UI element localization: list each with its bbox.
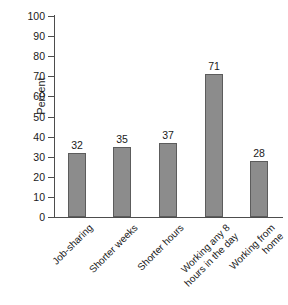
bar xyxy=(68,153,86,217)
y-axis-tick-label: 60 xyxy=(5,91,45,101)
y-axis-tick-label: 30 xyxy=(5,152,45,162)
plot-area: 3235377128 xyxy=(54,16,282,217)
bar xyxy=(159,143,177,217)
y-axis-tick-label: 70 xyxy=(5,71,45,81)
bar-value-label: 32 xyxy=(57,140,97,151)
bar-value-label: 35 xyxy=(102,134,142,145)
bar-value-label: 37 xyxy=(148,130,188,141)
y-axis-tick-label: 100 xyxy=(5,11,45,21)
bar xyxy=(205,74,223,217)
y-axis-tick-label: 40 xyxy=(5,132,45,142)
bar xyxy=(250,161,268,217)
bar xyxy=(113,147,131,217)
bar-chart-figure: Percent 1009080706050403020100 323537712… xyxy=(0,0,288,305)
bar-value-label: 28 xyxy=(239,148,279,159)
y-axis-tick-label: 90 xyxy=(5,31,45,41)
bar-value-label: 71 xyxy=(194,61,234,72)
y-axis-tick-label: 10 xyxy=(5,192,45,202)
y-axis-tick-label: 80 xyxy=(5,51,45,61)
y-axis-tick xyxy=(48,217,54,218)
y-axis-tick-label: 50 xyxy=(5,112,45,122)
x-axis-category-label: Job-sharing xyxy=(2,222,95,305)
x-axis-line xyxy=(54,217,283,218)
y-axis-tick-label: 0 xyxy=(5,212,45,222)
y-axis-tick-label: 20 xyxy=(5,172,45,182)
